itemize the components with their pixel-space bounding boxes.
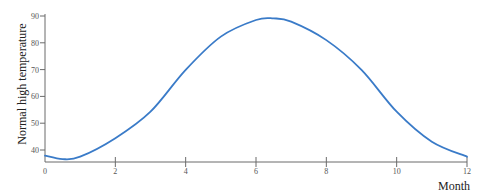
temperature-curve bbox=[45, 18, 467, 159]
x-tick-label: 0 bbox=[43, 167, 47, 176]
x-axis-title: Month bbox=[438, 179, 470, 193]
x-tick-label: 6 bbox=[254, 167, 258, 176]
y-tick-label: 70 bbox=[31, 66, 39, 75]
y-tick-label: 50 bbox=[31, 119, 39, 128]
y-axis-title: Normal high temperature bbox=[15, 23, 29, 144]
y-tick-label: 90 bbox=[31, 12, 39, 21]
x-axis: 024681012 bbox=[43, 157, 471, 176]
y-tick-label: 60 bbox=[31, 92, 39, 101]
x-tick-label: 10 bbox=[393, 167, 401, 176]
x-tick-label: 4 bbox=[184, 167, 188, 176]
temperature-chart: 405060708090 024681012 Month Normal high… bbox=[0, 0, 485, 194]
x-tick-label: 8 bbox=[324, 167, 328, 176]
x-tick-label: 2 bbox=[113, 167, 117, 176]
y-tick-label: 80 bbox=[31, 39, 39, 48]
x-tick-label: 12 bbox=[463, 167, 471, 176]
y-axis: 405060708090 bbox=[31, 12, 45, 162]
y-tick-label: 40 bbox=[31, 146, 39, 155]
series-layer bbox=[45, 18, 467, 159]
